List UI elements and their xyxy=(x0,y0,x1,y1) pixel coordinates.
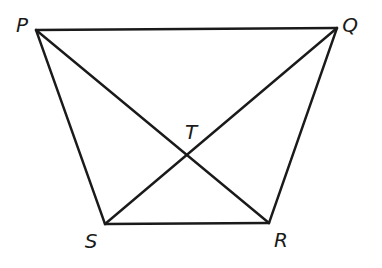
segment-rs xyxy=(105,223,269,224)
vertex-label-s: S xyxy=(85,231,98,251)
vertex-label-q: Q xyxy=(342,15,358,35)
intersection-label-t: T xyxy=(185,122,197,142)
vertex-label-r: R xyxy=(274,230,288,250)
segment-pq xyxy=(36,28,337,30)
vertex-label-p: P xyxy=(16,15,28,35)
